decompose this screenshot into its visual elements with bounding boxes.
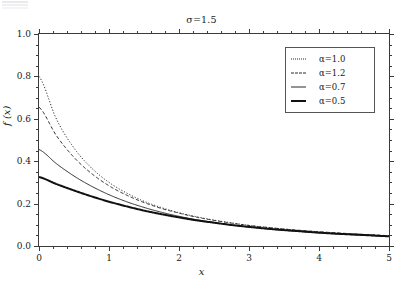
y-tick-major-right	[389, 76, 394, 77]
x-tick-major-top	[389, 29, 390, 34]
y-tick-major	[34, 76, 39, 77]
x-tick-minor	[151, 246, 152, 249]
y-tick-minor-right	[389, 161, 392, 162]
legend-item[interactable]: α=1.0	[290, 52, 369, 66]
y-tick-minor	[36, 214, 39, 215]
x-tick-major	[39, 246, 40, 251]
x-tick-major-top	[39, 29, 40, 34]
y-tick-major	[34, 119, 39, 120]
y-tick-label: 0.8	[17, 71, 31, 81]
y-tick-minor-right	[389, 45, 392, 46]
x-tick-label: 4	[316, 253, 322, 263]
y-tick-minor	[36, 193, 39, 194]
y-tick-minor	[36, 129, 39, 130]
x-tick-minor	[333, 246, 334, 249]
x-tick-minor-top	[263, 31, 264, 34]
legend-box: α=1.0α=1.2α=0.7α=0.5	[285, 47, 375, 113]
x-tick-minor-top	[221, 31, 222, 34]
x-tick-minor-top	[193, 31, 194, 34]
x-tick-minor	[165, 246, 166, 249]
x-tick-minor-top	[207, 31, 208, 34]
y-tick-minor	[36, 98, 39, 99]
y-tick-minor	[36, 66, 39, 67]
y-tick-minor	[36, 151, 39, 152]
y-tick-major-right	[389, 34, 394, 35]
y-tick-major	[34, 34, 39, 35]
y-tick-minor	[36, 87, 39, 88]
y-tick-minor-right	[389, 214, 392, 215]
legend-item[interactable]: α=0.7	[290, 80, 369, 94]
x-tick-minor	[53, 246, 54, 249]
y-tick-minor-right	[389, 108, 392, 109]
curve-α12	[39, 107, 389, 235]
y-tick-label: 0.0	[17, 241, 31, 251]
y-tick-minor-right	[389, 140, 392, 141]
y-tick-minor-right	[389, 98, 392, 99]
x-tick-major	[389, 246, 390, 251]
x-tick-minor-top	[347, 31, 348, 34]
y-tick-minor	[36, 235, 39, 236]
legend-line-sample-icon	[290, 54, 307, 64]
y-tick-minor-right	[389, 182, 392, 183]
y-tick-minor-right	[389, 225, 392, 226]
x-tick-minor	[67, 246, 68, 249]
y-tick-minor	[36, 225, 39, 226]
y-tick-minor	[36, 55, 39, 56]
x-tick-label: 5	[386, 253, 392, 263]
figure-container: σ=1.5 f (x) x 0.00.20.40.60.81.0012345 α…	[0, 0, 403, 292]
x-tick-minor-top	[81, 31, 82, 34]
y-tick-minor-right	[389, 172, 392, 173]
y-tick-major-right	[389, 119, 394, 120]
x-tick-minor	[95, 246, 96, 249]
x-tick-minor	[235, 246, 236, 249]
y-tick-minor	[36, 45, 39, 46]
x-tick-minor	[221, 246, 222, 249]
x-tick-minor	[305, 246, 306, 249]
x-tick-minor	[81, 246, 82, 249]
x-tick-major	[249, 246, 250, 251]
legend-item[interactable]: α=0.5	[290, 94, 369, 108]
legend-item-label: α=1.2	[319, 68, 345, 78]
x-tick-major	[109, 246, 110, 251]
x-tick-minor-top	[375, 31, 376, 34]
x-tick-minor-top	[123, 31, 124, 34]
x-tick-minor-top	[361, 31, 362, 34]
x-tick-minor-top	[333, 31, 334, 34]
y-tick-label: 1.0	[17, 29, 31, 39]
legend-line-sample-icon	[290, 82, 307, 92]
y-tick-major	[34, 204, 39, 205]
x-tick-major-top	[179, 29, 180, 34]
y-tick-minor	[36, 182, 39, 183]
x-tick-minor-top	[95, 31, 96, 34]
y-tick-minor	[36, 172, 39, 173]
y-tick-label: 0.6	[17, 114, 31, 124]
x-tick-minor-top	[53, 31, 54, 34]
x-tick-label: 0	[36, 253, 42, 263]
x-tick-minor-top	[291, 31, 292, 34]
x-tick-minor	[123, 246, 124, 249]
y-tick-minor-right	[389, 55, 392, 56]
legend-item-label: α=0.5	[319, 96, 345, 106]
x-tick-minor-top	[305, 31, 306, 34]
x-tick-minor-top	[165, 31, 166, 34]
legend-item[interactable]: α=1.2	[290, 66, 369, 80]
x-tick-minor-top	[277, 31, 278, 34]
x-tick-label: 2	[176, 253, 182, 263]
x-tick-minor-top	[137, 31, 138, 34]
x-tick-major	[179, 246, 180, 251]
x-tick-major	[319, 246, 320, 251]
x-tick-minor	[291, 246, 292, 249]
y-tick-minor-right	[389, 129, 392, 130]
y-tick-label: 0.4	[17, 156, 31, 166]
y-tick-minor-right	[389, 66, 392, 67]
legend-item-label: α=1.0	[319, 54, 345, 64]
x-tick-minor-top	[235, 31, 236, 34]
image-corner-artifact	[2, 1, 28, 9]
y-tick-major-right	[389, 204, 394, 205]
x-tick-minor	[193, 246, 194, 249]
x-tick-minor-top	[151, 31, 152, 34]
x-tick-label: 1	[106, 253, 112, 263]
y-tick-minor	[36, 161, 39, 162]
x-tick-major-top	[249, 29, 250, 34]
x-tick-major-top	[109, 29, 110, 34]
